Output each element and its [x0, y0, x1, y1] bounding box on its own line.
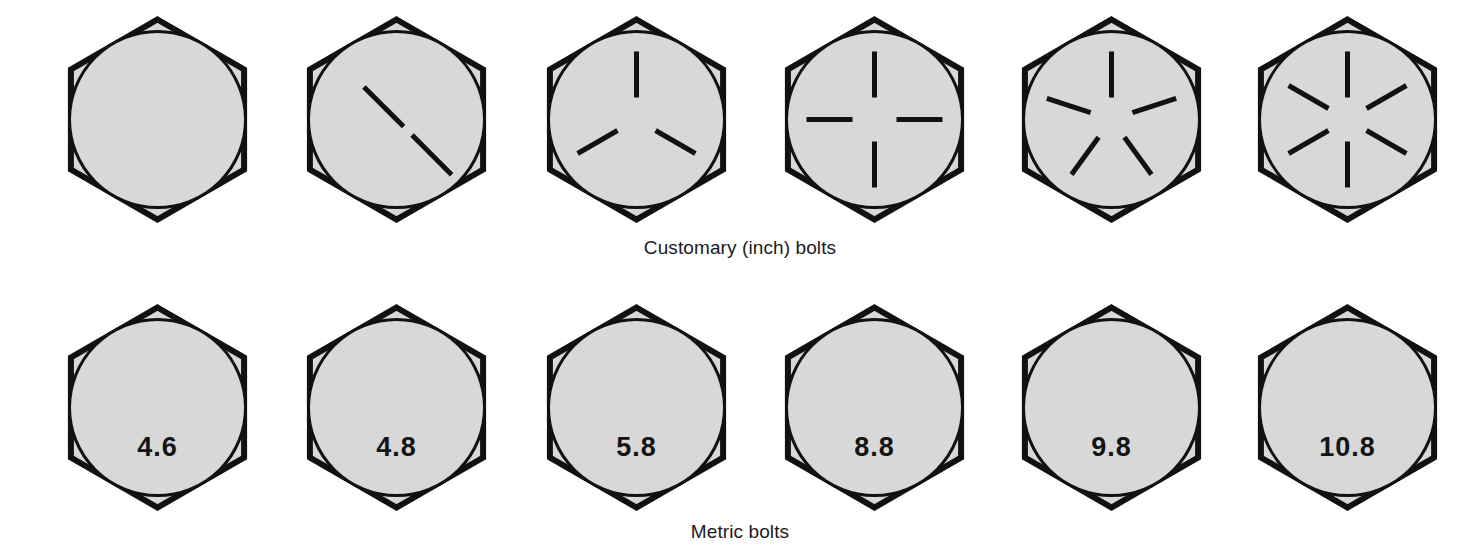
- customary-bolt-2-lines: [289, 12, 504, 227]
- caption-customary-bolts: Customary (inch) bolts: [0, 237, 1480, 259]
- metric-bolt-8-8: 8.8: [767, 300, 982, 515]
- customary-bolt-row: [0, 12, 1480, 227]
- chamfer-circle: [69, 320, 245, 496]
- chamfer-circle: [548, 320, 724, 496]
- grade-number-label: 8.8: [854, 432, 895, 462]
- chamfer-circle: [69, 32, 245, 208]
- metric-bolt-row: 4.64.85.88.89.810.8: [0, 300, 1480, 515]
- metric-bolt-4-8: 4.8: [289, 300, 504, 515]
- metric-bolt-10-8: 10.8: [1240, 300, 1455, 515]
- chamfer-circle: [308, 320, 484, 496]
- grade-number-label: 5.8: [616, 432, 657, 462]
- grade-number-label: 9.8: [1091, 432, 1132, 462]
- customary-bolt-0-lines: [50, 12, 265, 227]
- customary-bolt-3-lines: [529, 12, 744, 227]
- metric-bolt-9-8: 9.8: [1004, 300, 1219, 515]
- bolt-grade-figure: Customary (inch) bolts 4.64.85.88.89.810…: [0, 0, 1480, 554]
- chamfer-circle: [1023, 320, 1199, 496]
- metric-bolt-5-8: 5.8: [529, 300, 744, 515]
- grade-number-label: 4.6: [137, 432, 178, 462]
- customary-bolt-5-lines: [1004, 12, 1219, 227]
- grade-number-label: 4.8: [376, 432, 417, 462]
- customary-bolt-6-lines: [1240, 12, 1455, 227]
- caption-metric-bolts: Metric bolts: [0, 521, 1480, 543]
- chamfer-circle: [786, 320, 962, 496]
- grade-number-label: 10.8: [1319, 432, 1376, 462]
- customary-bolt-4-lines: [767, 12, 982, 227]
- chamfer-circle: [1259, 320, 1435, 496]
- metric-bolt-4-6: 4.6: [50, 300, 265, 515]
